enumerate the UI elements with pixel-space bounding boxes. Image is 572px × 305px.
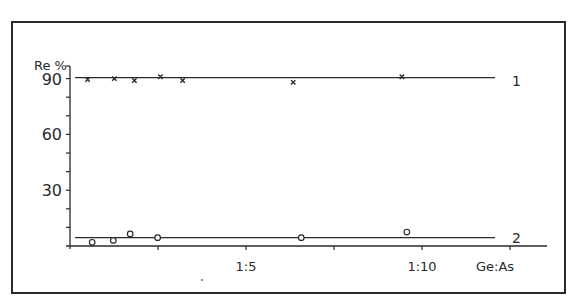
scan-speck [201,279,203,281]
y-axis-title: Re % [34,58,67,73]
series-2-point [127,231,133,237]
series-1-point [180,78,184,82]
series-2-point [89,239,95,245]
series-2-point [155,235,161,241]
series-2-point [298,235,304,241]
series-2-label: 2 [512,230,521,246]
series-1-markers [85,75,404,85]
x-tick-label: 1:5 [236,259,257,274]
x-axis-title: Ge:As [476,259,514,274]
series-2-point [404,229,410,235]
y-tick-label: 30 [42,181,62,200]
series-1-label: 1 [512,73,521,89]
x-tick-label: 1:10 [407,259,436,274]
series-1-point [291,80,295,84]
chart: 306090 1:51:10 Re % Ge:As 1 2 [0,0,572,305]
series-2-point [110,238,116,244]
series-1-point [132,78,136,82]
y-axis-tick-labels: 306090 [42,70,62,201]
chart-frame [12,22,565,293]
y-tick-label: 60 [42,125,62,144]
x-axis-tick-labels: 1:51:10 [236,259,437,274]
